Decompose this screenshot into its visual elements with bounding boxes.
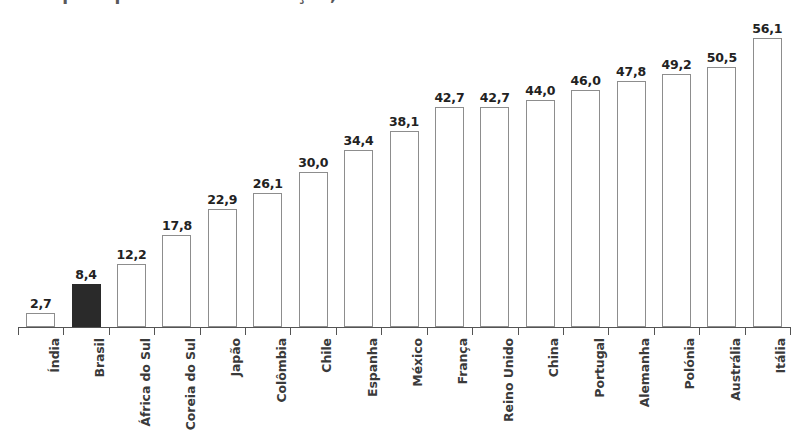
bar-value-label: 26,1 [238,176,298,191]
x-axis-baseline [18,327,790,328]
bar-value-label: 50,5 [692,50,752,65]
bar-value-label: 8,4 [56,267,116,282]
x-axis-tick [18,327,19,335]
x-axis-label: França [455,338,470,384]
bar-portugal[interactable] [571,90,600,327]
bar-alemanha[interactable] [617,81,646,327]
plot-area: 2,7Índia8,4Brasil12,2África do Sul17,8Co… [0,0,812,439]
x-axis-tick-end [790,327,791,335]
bar-índia[interactable] [26,313,55,327]
bar-value-label: 38,1 [374,114,434,129]
x-axis-tick [745,327,746,335]
x-axis-label: Índia [47,338,62,373]
x-axis-tick [518,327,519,335]
x-axis-label: Brasil [92,338,107,378]
bar-itália[interactable] [753,38,782,327]
bar-china[interactable] [526,100,555,327]
x-axis-tick [109,327,110,335]
x-axis-tick [245,327,246,335]
bar-coreia-do-sul[interactable] [162,235,191,327]
x-axis-tick [472,327,473,335]
x-axis-tick [63,327,64,335]
x-axis-label: Espanha [365,338,380,397]
x-axis-label: México [410,338,425,387]
bar-brasil[interactable] [72,284,101,327]
x-axis-label: Reino Unido [501,338,516,422]
x-axis-tick [563,327,564,335]
x-axis-label: Itália [773,338,788,373]
x-axis-label: Japão [228,338,243,377]
x-axis-label: Coreia do Sul [183,338,198,430]
bar-áfrica-do-sul[interactable] [117,264,146,327]
x-axis-label: Polónia [682,338,697,390]
x-axis-tick [699,327,700,335]
x-axis-label: Austrália [728,338,743,401]
x-axis-tick [290,327,291,335]
bar-value-label: 22,9 [192,192,252,207]
x-axis-tick [200,327,201,335]
x-axis-tick [154,327,155,335]
bar-value-label: 56,1 [737,21,797,36]
x-axis-tick [381,327,382,335]
bar-frança[interactable] [435,107,464,327]
bar-chile[interactable] [299,172,328,327]
bar-austrália[interactable] [707,67,736,327]
bar-espanha[interactable] [344,150,373,327]
bar-value-label: 2,7 [11,296,71,311]
bar-japão[interactable] [208,209,237,327]
bar-value-label: 12,2 [102,247,162,262]
x-axis-tick [336,327,337,335]
bar-chart: Despesa pública com educação, 2015 2,7Ín… [0,0,812,439]
x-axis-label: Alemanha [637,338,652,407]
bar-reino-unido[interactable] [480,107,509,327]
x-axis-label: Chile [319,338,334,373]
bar-value-label: 34,4 [329,133,389,148]
bar-méxico[interactable] [390,131,419,327]
x-axis-tick [427,327,428,335]
x-axis-label: África do Sul [138,338,153,427]
x-axis-tick [608,327,609,335]
bar-value-label: 30,0 [283,155,343,170]
bar-colômbia[interactable] [253,193,282,327]
bar-value-label: 17,8 [147,218,207,233]
x-axis-label: Colômbia [274,338,289,403]
x-axis-tick [654,327,655,335]
bar-polónia[interactable] [662,74,691,327]
x-axis-label: Portugal [592,338,607,398]
x-axis-label: China [546,338,561,377]
